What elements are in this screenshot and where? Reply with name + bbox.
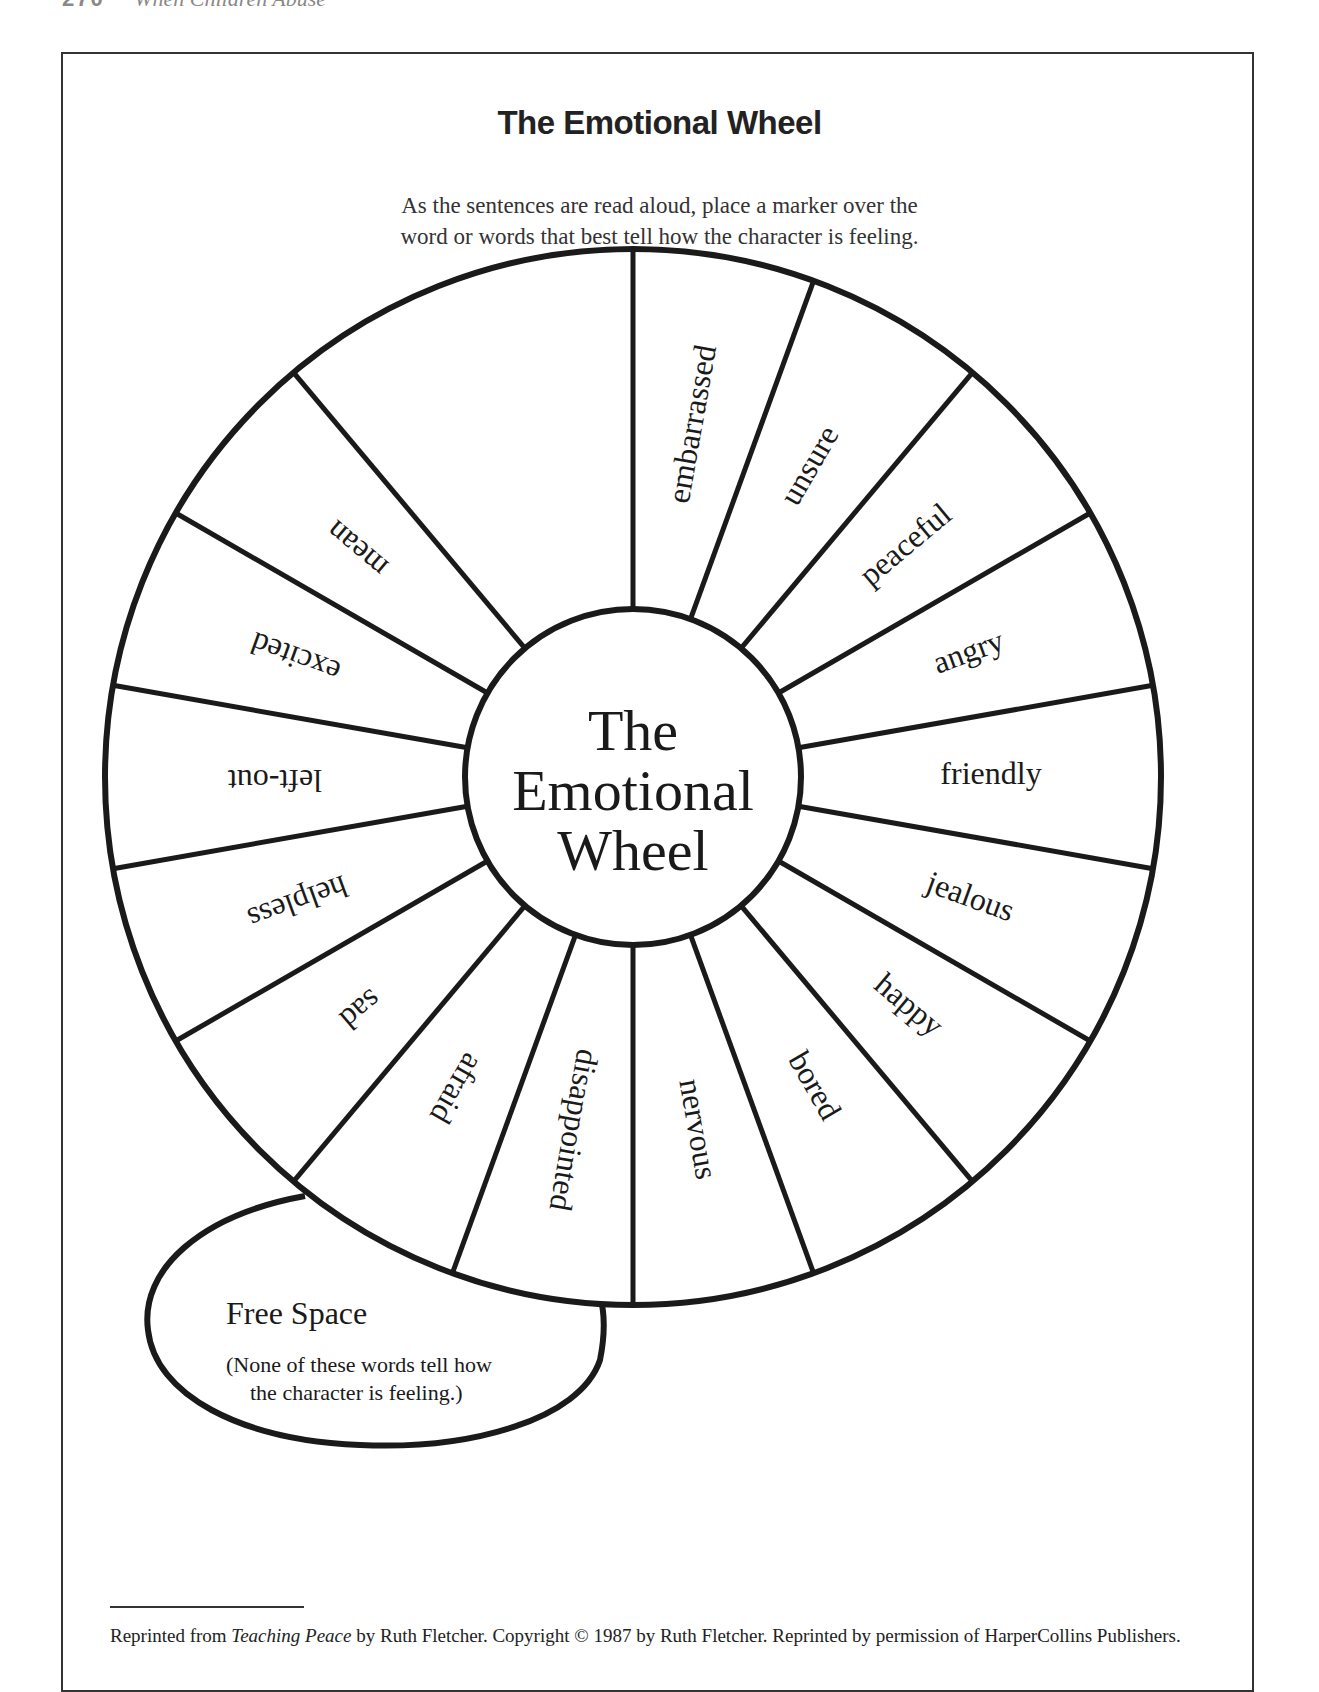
- center-label-line-2: Emotional: [512, 758, 754, 823]
- footnote-suffix: by Ruth Fletcher. Copyright © 1987 by Ru…: [351, 1625, 1180, 1646]
- footnote-rule: [110, 1606, 304, 1608]
- footnote-book-title: Teaching Peace: [231, 1625, 351, 1646]
- free-space-note-2: the character is feeling.): [250, 1380, 463, 1405]
- footnote-prefix: Reprinted from: [110, 1625, 231, 1646]
- wheel-graphic: embarrassedunsurepeacefulangryfriendlyje…: [105, 249, 1161, 1305]
- footnote: Reprinted from Teaching Peace by Ruth Fl…: [110, 1622, 1220, 1649]
- segment-label[interactable]: left-out: [228, 763, 322, 799]
- center-label-line-1: The: [588, 698, 678, 763]
- free-space-title: Free Space: [226, 1295, 367, 1331]
- free-space-note-1: (None of these words tell how: [226, 1352, 492, 1377]
- center-label-line-3: Wheel: [557, 818, 708, 883]
- segment-label[interactable]: friendly: [940, 755, 1041, 791]
